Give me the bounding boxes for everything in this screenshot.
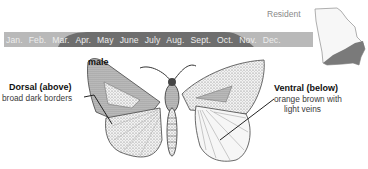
abdomen [167,108,177,156]
ventral-hindwing [195,106,250,161]
dorsal-description: broad dark borders [2,93,72,103]
ventral-forewing [182,60,264,114]
sex-label: male [88,57,109,67]
ventral-title: Ventral (below) [274,83,338,93]
antenna-left [140,67,170,80]
ventral-description-line2: light veins [284,104,321,114]
ventral-description-line1: orange brown with [274,94,342,104]
antenna-right [174,65,196,80]
dorsal-title: Dorsal (above) [9,82,72,92]
